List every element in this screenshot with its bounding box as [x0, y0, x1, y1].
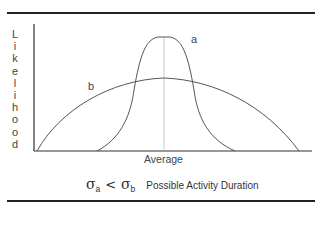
y-letter: k [9, 52, 21, 64]
curve-a-label: a [191, 33, 197, 45]
sigma-a: σ [86, 176, 96, 192]
caption: σa < σb Possible Activity Duration [86, 176, 259, 194]
y-letter: l [9, 77, 21, 89]
sigma-b: σ [121, 176, 131, 192]
curve-a [97, 37, 235, 151]
less-than: < [105, 177, 116, 192]
subscript-a: a [96, 184, 101, 194]
y-letter: d [9, 138, 21, 150]
y-letter: i [9, 40, 21, 52]
y-axis-label: L i k e l i h o o d [9, 28, 21, 150]
x-axis-title: Possible Activity Duration [146, 180, 258, 191]
curve-b [37, 78, 299, 151]
y-letter: h [9, 101, 21, 113]
average-label: Average [144, 153, 183, 165]
subscript-b: b [131, 184, 136, 194]
y-letter: L [9, 28, 21, 40]
curve-b-label: b [88, 80, 94, 92]
y-letter: o [9, 113, 21, 125]
y-letter: o [9, 126, 21, 138]
y-letter: i [9, 89, 21, 101]
y-letter: e [9, 65, 21, 77]
